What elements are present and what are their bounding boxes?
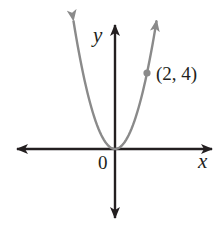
- point-label: (2, 4): [156, 63, 197, 85]
- x-axis-label: x: [197, 149, 208, 173]
- origin-label: 0: [98, 152, 108, 173]
- y-axis-label: y: [91, 23, 103, 47]
- parabola-graph: y x 0 (2, 4): [0, 0, 222, 236]
- point-marker: [143, 69, 150, 76]
